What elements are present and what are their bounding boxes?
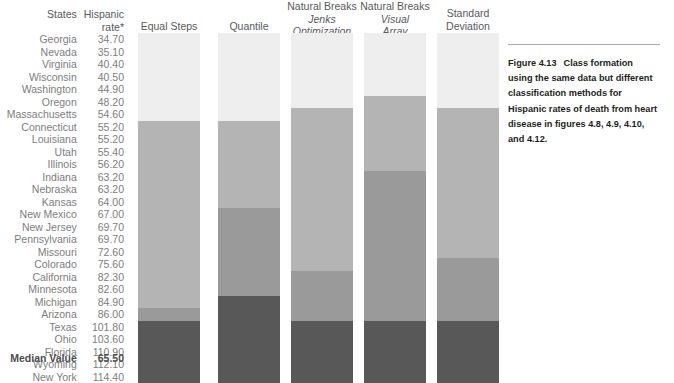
table-row: Minnesota82.60: [0, 283, 128, 296]
cell-state-name: Michigan: [0, 296, 77, 309]
table-row: Kansas64.00: [0, 196, 128, 209]
caption-text: Figure 4.13Class formation using the sam…: [508, 56, 660, 147]
cell-hispanic-rate: 82.30: [77, 271, 128, 284]
cell-state-name: Nebraska: [0, 183, 77, 196]
cell-state-name: Missouri: [0, 246, 77, 259]
cell-hispanic-rate: 69.70: [77, 233, 128, 246]
class-bar: [218, 33, 280, 383]
table-row: Georgia34.70: [0, 33, 128, 46]
table-row: Ohio103.60: [0, 333, 128, 346]
class-segment: [218, 121, 280, 209]
cell-state-name: Arizona: [0, 308, 77, 321]
caption-line-4: Hispanic rates of death from heart: [508, 104, 657, 114]
table-row: Indiana63.20: [0, 171, 128, 184]
class-segment: [138, 33, 200, 121]
column-title-line: Deviation: [408, 20, 528, 33]
cell-state-name: Connecticut: [0, 121, 77, 134]
cell-state-name: Texas: [0, 321, 77, 334]
cell-hispanic-rate: 63.20: [77, 183, 128, 196]
cell-hispanic-rate: 101.80: [77, 321, 128, 334]
cell-state-name: New Mexico: [0, 208, 77, 221]
cell-hispanic-rate: 103.60: [77, 333, 128, 346]
column-title-line: Standard: [408, 7, 528, 20]
class-bar: [437, 33, 499, 383]
header-rate-line1: Hispanic: [84, 8, 124, 20]
cell-state-name: Nevada: [0, 46, 77, 59]
caption-line-6: and 4.12.: [508, 134, 547, 144]
table-row: Pennsylvania69.70: [0, 233, 128, 246]
cell-state-name: California: [0, 271, 77, 284]
class-segment: [218, 296, 280, 383]
class-segment: [364, 321, 426, 383]
cell-hispanic-rate: 82.60: [77, 283, 128, 296]
table-row: New Jersey69.70: [0, 221, 128, 234]
cell-hispanic-rate: 69.70: [77, 221, 128, 234]
class-segment: [364, 33, 426, 96]
cell-hispanic-rate: 75.60: [77, 258, 128, 271]
cell-state-name: Kansas: [0, 196, 77, 209]
cell-hispanic-rate: 55.40: [77, 146, 128, 159]
table-row: Oregon48.20: [0, 96, 128, 109]
cell-hispanic-rate: 55.20: [77, 121, 128, 134]
caption-line-2: using the same data but different: [508, 73, 652, 83]
median-value: 65.50: [77, 352, 128, 364]
cell-hispanic-rate: 86.00: [77, 308, 128, 321]
caption-figure-number: Figure 4.13: [508, 58, 557, 68]
median-label: Median Value: [0, 352, 77, 364]
cell-state-name: Virginia: [0, 58, 77, 71]
class-segment: [364, 96, 426, 171]
table-row: Texas101.80: [0, 321, 128, 334]
class-segment: [437, 321, 499, 383]
cell-state-name: Illinois: [0, 158, 77, 171]
cell-hispanic-rate: 40.50: [77, 71, 128, 84]
cell-hispanic-rate: 48.20: [77, 96, 128, 109]
cell-hispanic-rate: 34.70: [77, 33, 128, 46]
figure-caption: Figure 4.13Class formation using the sam…: [508, 44, 660, 147]
class-segment: [138, 121, 200, 309]
class-segment: [218, 208, 280, 296]
cell-state-name: New York: [0, 371, 77, 383]
class-segment: [437, 258, 499, 321]
caption-line-3: classification methods for: [508, 88, 622, 98]
class-bar: [138, 33, 200, 383]
cell-hispanic-rate: 67.00: [77, 208, 128, 221]
class-bar: [364, 33, 426, 383]
table-row: Colorado75.60: [0, 258, 128, 271]
cell-hispanic-rate: 54.60: [77, 108, 128, 121]
cell-hispanic-rate: 56.20: [77, 158, 128, 171]
cell-state-name: Oregon: [0, 96, 77, 109]
cell-hispanic-rate: 114.40: [77, 371, 128, 383]
class-segment: [291, 33, 353, 108]
column-title: StandardDeviation: [408, 7, 528, 32]
cell-hispanic-rate: 72.60: [77, 246, 128, 259]
cell-hispanic-rate: 35.10: [77, 46, 128, 59]
cell-hispanic-rate: 44.90: [77, 83, 128, 96]
cell-hispanic-rate: 64.00: [77, 196, 128, 209]
cell-hispanic-rate: 55.20: [77, 133, 128, 146]
cell-state-name: New Jersey: [0, 221, 77, 234]
table-row: Missouri72.60: [0, 246, 128, 259]
median-row: Median Value 65.50: [0, 352, 128, 364]
data-table: States Hispanic rate* Georgia34.70Nevada…: [0, 8, 128, 383]
class-segment: [364, 171, 426, 321]
class-bar: [291, 33, 353, 383]
class-segment: [291, 108, 353, 271]
table-body: Georgia34.70Nevada35.10Virginia40.40Wisc…: [0, 33, 128, 383]
cell-state-name: Georgia: [0, 33, 77, 46]
column-header-states: States: [0, 8, 77, 33]
caption-line-1: Class formation: [564, 58, 633, 68]
table-row: Michigan84.90: [0, 296, 128, 309]
cell-state-name: Minnesota: [0, 283, 77, 296]
cell-hispanic-rate: 63.20: [77, 171, 128, 184]
class-segment: [138, 321, 200, 383]
cell-state-name: Ohio: [0, 333, 77, 346]
cell-state-name: Massachusetts: [0, 108, 77, 121]
table-row: Illinois56.20: [0, 158, 128, 171]
table-row: California82.30: [0, 271, 128, 284]
table-row: New York114.40: [0, 371, 128, 383]
table-row: Virginia40.40: [0, 58, 128, 71]
table-row: Nevada35.10: [0, 46, 128, 59]
caption-line-5: disease in figures 4.8, 4.9, 4.10,: [508, 119, 644, 129]
table-row: Arizona86.00: [0, 308, 128, 321]
